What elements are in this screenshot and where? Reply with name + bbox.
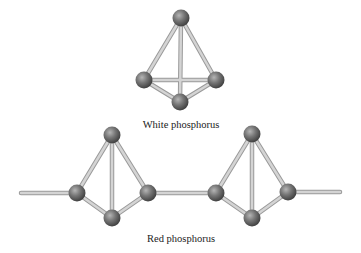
- bonds: [144, 18, 216, 102]
- white-phosphorus-molecule: [136, 10, 225, 111]
- red-phosphorus-chain: [21, 126, 340, 227]
- red-phosphorus-label: Red phosphorus: [147, 233, 215, 244]
- white-phosphorus-label: White phosphorus: [143, 119, 220, 130]
